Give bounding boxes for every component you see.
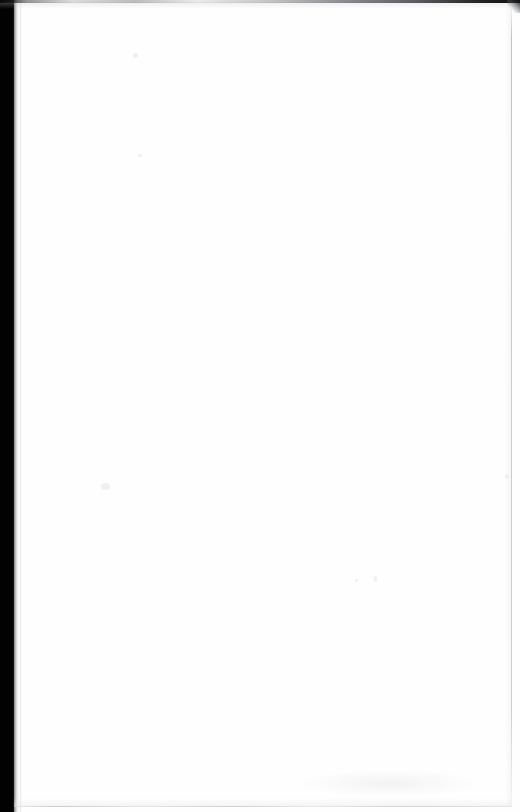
top-edge-haze — [0, 2, 520, 9]
scanned-page — [0, 0, 520, 812]
page-text-content — [30, 40, 490, 770]
bottom-page-boundary-line — [14, 806, 512, 807]
scan-speck — [133, 53, 138, 58]
top-scan-edge-line — [0, 0, 520, 3]
left-gutter-shadow — [0, 0, 14, 812]
scan-smudge — [300, 770, 480, 796]
right-page-boundary-line — [511, 6, 512, 806]
scan-speck — [138, 154, 142, 157]
left-gutter-crease — [20, 0, 22, 812]
scan-speck — [374, 576, 377, 582]
scan-speck — [505, 474, 509, 479]
scan-speck — [101, 483, 110, 490]
scan-speck — [355, 579, 358, 582]
